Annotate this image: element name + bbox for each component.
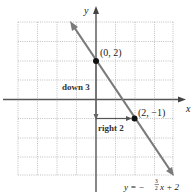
run-arrow	[96, 116, 132, 121]
svg-text:y = −: y = −	[123, 182, 145, 192]
line-graph	[70, 21, 174, 176]
svg-text:x + 2: x + 2	[159, 182, 180, 192]
point-y-intercept	[93, 58, 99, 64]
point-label-0-2: (0, 2)	[100, 47, 122, 59]
x-axis-label: x	[185, 103, 191, 114]
rise-label: down 3	[62, 82, 90, 92]
point-second	[132, 116, 138, 122]
coordinate-graph: x y (0, 2) (2, −1) down 3 right 2 y = − …	[0, 0, 193, 192]
svg-text:2: 2	[155, 185, 158, 191]
x-axis	[3, 97, 186, 103]
point-label-2-neg1: (2, −1)	[138, 107, 165, 119]
svg-text:3: 3	[155, 178, 158, 184]
rise-arrow	[94, 61, 99, 120]
y-axis-label: y	[83, 5, 89, 16]
equation-label: y = − 3 2 x + 2	[123, 178, 180, 192]
run-label: right 2	[98, 123, 124, 133]
